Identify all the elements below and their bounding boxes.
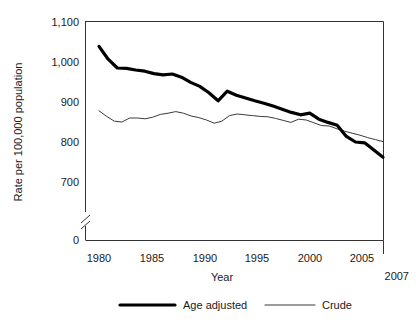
y-tick-label: 700 xyxy=(61,176,79,188)
line-chart-figure: Rate per 100,000 population 1,100 1,000 … xyxy=(0,0,416,324)
y-tick-label: 1,000 xyxy=(51,56,79,68)
x-tick-label: 2005 xyxy=(350,252,374,264)
x-axis-title: Year xyxy=(211,271,234,283)
x-tick-label: 1980 xyxy=(87,252,111,264)
y-axis-title: Rate per 100,000 population xyxy=(12,63,24,202)
x-tick-label: 1990 xyxy=(193,252,217,264)
legend-label-age-adjusted: Age adjusted xyxy=(183,299,247,311)
chart-background xyxy=(0,0,416,324)
x-tick-label: 2000 xyxy=(298,252,322,264)
y-tick-label: 0 xyxy=(73,234,79,246)
x-axis-end-label: 2007 xyxy=(385,270,409,282)
legend-label-crude: Crude xyxy=(322,299,352,311)
x-tick-label: 1995 xyxy=(245,252,269,264)
x-tick-label: 1985 xyxy=(140,252,164,264)
y-tick-label: 1,100 xyxy=(51,16,79,28)
y-tick-label: 900 xyxy=(61,96,79,108)
y-tick-label: 800 xyxy=(61,136,79,148)
